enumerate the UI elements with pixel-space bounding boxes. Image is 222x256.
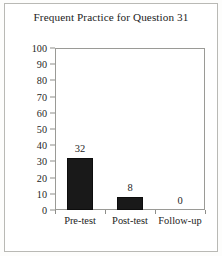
bar (67, 158, 93, 210)
x-axis-tick-mark (55, 210, 56, 214)
x-axis-tick-label: Follow-up (158, 215, 201, 226)
y-axis-tick-label: 60 (37, 107, 47, 118)
bar-value-label: 0 (177, 195, 182, 206)
y-axis-tick-label: 20 (37, 172, 47, 183)
bar-group: 32 (55, 48, 105, 210)
x-axis: Pre-testPost-testFollow-up (55, 215, 205, 233)
chart-title: Frequent Practice for Question 31 (0, 11, 222, 23)
y-axis: 1009080706050403020100 (0, 48, 55, 210)
y-axis-tick-label: 30 (37, 156, 47, 167)
y-axis-tick-label: 40 (37, 140, 47, 151)
bars-layer: 3280 (55, 48, 205, 210)
bar-value-label: 8 (127, 182, 132, 193)
y-axis-tick-label: 90 (37, 59, 47, 70)
y-axis-tick-label: 10 (37, 188, 47, 199)
bar (117, 197, 143, 210)
x-axis-tick-mark (155, 210, 156, 214)
x-axis-tick-mark (105, 210, 106, 214)
bar-group: 0 (155, 48, 205, 210)
bar-value-label: 32 (75, 143, 86, 154)
y-axis-tick-label: 50 (37, 124, 47, 135)
x-axis-tick-label: Post-test (112, 215, 148, 226)
y-axis-tick-label: 100 (32, 43, 47, 54)
y-axis-tick-label: 0 (42, 205, 47, 216)
y-axis-tick-label: 70 (37, 91, 47, 102)
bar-chart-figure: Frequent Practice for Question 31 Percen… (0, 0, 222, 256)
x-axis-tick-label: Pre-test (64, 215, 96, 226)
x-axis-tick-mark (205, 210, 206, 214)
y-axis-tick-label: 80 (37, 75, 47, 86)
bar-group: 8 (105, 48, 155, 210)
